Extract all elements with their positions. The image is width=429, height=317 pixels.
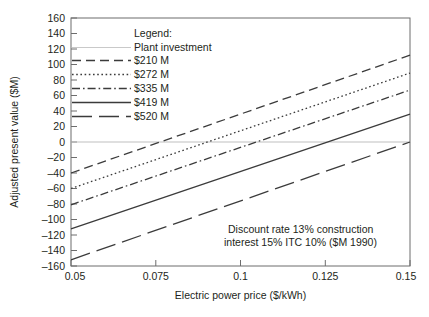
x-tick-label: 0.075: [143, 270, 169, 282]
y-tick-label: –140: [42, 244, 66, 256]
y-tick-label: –120: [42, 229, 66, 241]
x-axis-title: Electric power price ($/kWh): [175, 289, 306, 301]
y-tick-label: –80: [47, 198, 65, 210]
y-tick-label: 0: [59, 136, 65, 148]
y-tick-label: 140: [47, 27, 65, 39]
y-tick-label: –60: [47, 182, 65, 194]
chart-svg: 160 140 120 100 80 60 40 20 0 –20 –40 –6…: [0, 0, 429, 317]
y-tick-label: 100: [47, 58, 65, 70]
legend-label-210m: $210 M: [134, 54, 169, 66]
y-tick-label: –40: [47, 167, 65, 179]
y-tick-label: –160: [42, 260, 66, 272]
y-tick-label: 160: [47, 12, 65, 24]
legend-subtitle: Plant investment: [134, 41, 212, 53]
legend-title: Legend:: [134, 27, 172, 39]
legend-label-335m: $335 M: [134, 82, 169, 94]
y-tick-label: 20: [53, 120, 65, 132]
y-tick-label: 60: [53, 89, 65, 101]
y-tick-label: –20: [47, 151, 65, 163]
y-tick-label: 40: [53, 105, 65, 117]
y-tick-label: 80: [53, 74, 65, 86]
x-tick-label: 0.05: [65, 270, 86, 282]
y-tick-label: –100: [42, 213, 66, 225]
x-tick-label: 0.125: [312, 270, 338, 282]
annotation-line-1: Discount rate 13% construction: [228, 223, 373, 235]
legend-label-272m: $272 M: [134, 68, 169, 80]
legend-label-520m: $520 M: [134, 110, 169, 122]
chart-figure: 160 140 120 100 80 60 40 20 0 –20 –40 –6…: [0, 0, 429, 317]
x-tick-label: 0.15: [396, 270, 417, 282]
y-tick-label: 120: [47, 43, 65, 55]
legend-label-419m: $419 M: [134, 96, 169, 108]
y-axis-title: Adjusted present value ($M): [8, 76, 20, 207]
chart-annotation: Discount rate 13% construction interest …: [224, 223, 377, 248]
annotation-line-2: interest 15% ITC 10% ($M 1990): [224, 236, 377, 248]
x-tick-label: 0.1: [233, 270, 248, 282]
